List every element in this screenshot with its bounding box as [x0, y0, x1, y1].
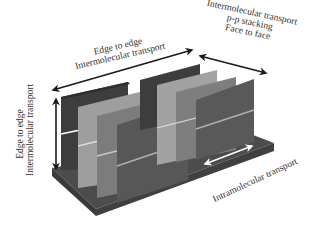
face-to-face-arrow	[200, 56, 266, 73]
label-line: Intermolecular transport	[25, 92, 35, 176]
label-line: Edge to edge	[15, 92, 25, 176]
edge-to-edge-vertical-label: Edge to edge Intermolecular transport	[15, 92, 35, 176]
